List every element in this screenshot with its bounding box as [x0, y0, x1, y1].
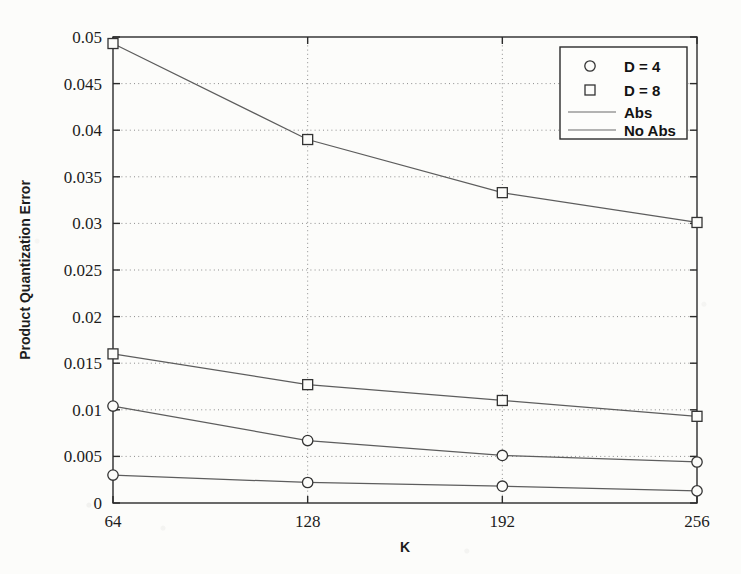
- data-point-square: [692, 217, 702, 227]
- data-point-square: [303, 380, 313, 390]
- x-tick-labels: 64128192256: [105, 512, 710, 531]
- data-point-circle: [108, 470, 118, 480]
- x-tick-label: 256: [684, 512, 710, 531]
- chart-page: 00.0050.010.0150.020.0250.030.0350.040.0…: [0, 0, 741, 574]
- y-tick-label: 0.04: [72, 121, 102, 140]
- x-tick-label: 128: [295, 512, 321, 531]
- y-tick-label: 0: [94, 494, 103, 513]
- product-quantization-error-chart: 00.0050.010.0150.020.0250.030.0350.040.0…: [0, 0, 741, 574]
- y-tick-label: 0.03: [72, 214, 102, 233]
- data-point-square: [497, 188, 507, 198]
- y-tick-label: 0.035: [64, 168, 102, 187]
- data-point-circle: [692, 457, 702, 467]
- y-tick-label: 0.02: [72, 308, 102, 327]
- data-point-square: [303, 135, 313, 145]
- legend-label: Abs: [624, 104, 652, 121]
- y-tick-label: 0.05: [72, 28, 102, 47]
- y-axis-title: Product Quantization Error: [17, 180, 33, 360]
- y-tick-label: 0.01: [72, 401, 102, 420]
- legend-label: D = 8: [624, 82, 660, 99]
- data-point-square: [108, 349, 118, 359]
- y-tick-label: 0.025: [64, 261, 102, 280]
- data-point-circle: [108, 401, 118, 411]
- data-point-circle: [497, 450, 507, 460]
- y-tick-label: 0.005: [64, 447, 102, 466]
- y-tick-label: 0.045: [64, 75, 102, 94]
- series-line-circle: [113, 475, 697, 491]
- data-point-circle: [302, 435, 312, 445]
- data-point-square: [108, 39, 118, 49]
- x-tick-label: 64: [105, 512, 123, 531]
- x-axis-title: K: [400, 539, 410, 555]
- legend-marker-circle: [585, 61, 595, 71]
- data-point-square: [692, 411, 702, 421]
- x-tick-label: 192: [490, 512, 516, 531]
- y-tick-label: 0.015: [64, 354, 102, 373]
- data-point-circle: [692, 486, 702, 496]
- data-point-square: [497, 395, 507, 405]
- data-point-circle: [302, 477, 312, 487]
- data-point-circle: [497, 481, 507, 491]
- chart-legend: D = 4D = 8AbsNo Abs: [560, 47, 687, 139]
- series-line-circle: [113, 406, 697, 462]
- legend-label: D = 4: [624, 58, 661, 75]
- legend-label: No Abs: [624, 122, 676, 139]
- legend-marker-square: [585, 85, 595, 95]
- y-tick-labels: 00.0050.010.0150.020.0250.030.0350.040.0…: [64, 28, 103, 513]
